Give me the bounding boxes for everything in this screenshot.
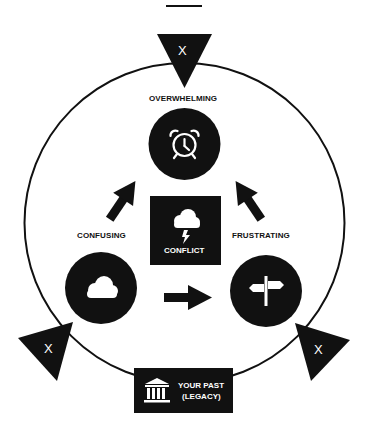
conflict-label: CONFLICT xyxy=(164,246,204,255)
frustrating-label: FRUSTRATING xyxy=(232,231,290,240)
top-x-label: X xyxy=(178,43,187,58)
arrow-confusing-to-overwhelming xyxy=(100,174,146,226)
frustrating-node xyxy=(230,255,302,327)
right-x-label: X xyxy=(314,342,323,357)
cycle-diagram xyxy=(0,0,367,433)
overwhelming-node xyxy=(149,108,221,180)
left-x-label: X xyxy=(44,341,53,356)
legacy-label-line1: YOUR PAST xyxy=(178,381,224,390)
overwhelming-label: OVERWHELMING xyxy=(149,94,217,103)
legacy-label-line2: (LEGACY) xyxy=(182,392,221,401)
arrow-frustrating-to-overwhelming xyxy=(226,174,272,226)
confusing-label: CONFUSING xyxy=(77,231,126,240)
legacy-box xyxy=(134,368,233,413)
confusing-node xyxy=(65,252,137,324)
arrow-confusing-to-frustrating xyxy=(164,285,212,310)
